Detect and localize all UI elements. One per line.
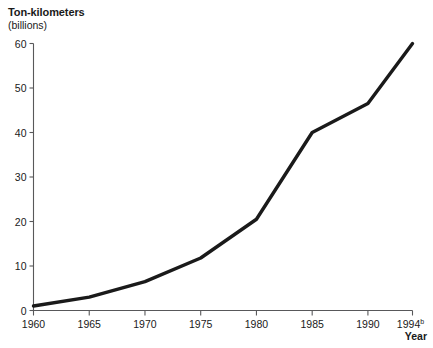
y-tick-label: 20 [15, 216, 27, 228]
x-tick-label: 1975 [189, 318, 213, 330]
y-axis-tick-group: 0102030405060 [15, 38, 34, 317]
x-tick-label: 1965 [78, 318, 102, 330]
y-tick-label: 60 [15, 38, 27, 50]
x-axis-tick-group: 19601965197019751980198519901994b [22, 311, 424, 330]
y-tick-label: 30 [15, 171, 27, 183]
y-tick-label: 40 [15, 127, 27, 139]
x-tick-label: 1980 [245, 318, 269, 330]
x-tick-label-superscript: b [420, 318, 424, 325]
y-tick-label: 0 [21, 305, 27, 317]
x-tick-label: 1990 [356, 318, 380, 330]
data-line-series-0 [34, 44, 413, 307]
x-tick-label: 1985 [300, 318, 324, 330]
y-tick-label: 50 [15, 82, 27, 94]
chart-plot-area: 0102030405060 19601965197019751980198519… [0, 0, 433, 348]
chart-container: Ton-kilometers (billions) Year 010203040… [0, 0, 433, 348]
x-tick-label: 1994b [397, 318, 424, 330]
y-tick-label: 10 [15, 260, 27, 272]
axis-lines [34, 44, 413, 311]
x-tick-label: 1970 [133, 318, 157, 330]
x-tick-label: 1960 [22, 318, 46, 330]
